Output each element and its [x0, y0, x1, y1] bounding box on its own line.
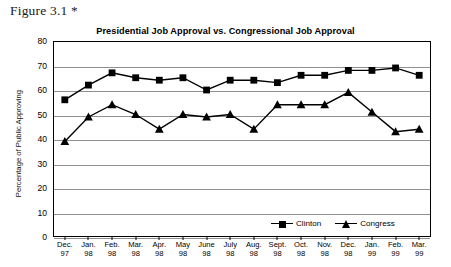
x-tick-label: Jan.98	[81, 240, 95, 259]
legend-label-congress: Congress	[360, 219, 395, 228]
data-point-square	[250, 77, 257, 84]
x-tick-label: Dec.97	[57, 240, 73, 259]
chart-series-layer	[53, 41, 431, 237]
y-tick-label: 30	[37, 159, 47, 169]
data-point-square	[274, 79, 281, 86]
data-point-square	[227, 77, 234, 84]
x-tick-label: July98	[223, 240, 237, 259]
data-point-triangle	[415, 125, 424, 133]
y-tick-label: 70	[37, 61, 47, 71]
data-point-square	[61, 96, 68, 103]
data-point-square	[156, 77, 163, 84]
x-axis-tick-labels: Dec.97Jan.98Feb.98Mar.98Apr.98May98June9…	[53, 240, 431, 266]
data-point-triangle	[155, 125, 164, 133]
chart-legend: Clinton Congress	[268, 216, 398, 231]
chart-title: Presidential Job Approval vs. Congressio…	[0, 26, 451, 36]
triangle-marker-icon	[335, 219, 357, 228]
data-point-triangle	[131, 110, 140, 118]
data-point-square	[369, 67, 376, 74]
series-line-clinton	[65, 68, 419, 100]
x-tick-label: May98	[176, 240, 190, 259]
data-point-triangle	[344, 88, 353, 96]
data-point-square	[180, 74, 187, 81]
y-tick-label: 50	[37, 110, 47, 120]
data-point-square	[109, 69, 116, 76]
y-tick-label: 40	[37, 134, 47, 144]
data-point-square	[132, 74, 139, 81]
x-tick-label: Feb.99	[388, 240, 403, 259]
data-point-square	[345, 67, 352, 74]
x-tick-label: Sept.98	[269, 240, 287, 259]
x-tick-label: Jan.99	[365, 240, 379, 259]
data-point-square	[298, 72, 305, 79]
data-point-triangle	[108, 100, 117, 108]
x-tick-label: June98	[198, 240, 214, 259]
gridline	[54, 238, 430, 239]
y-tick-label: 60	[37, 85, 47, 95]
x-tick-label: Aug.98	[246, 240, 262, 259]
x-tick-label: Nov.98	[317, 240, 332, 259]
data-point-square	[203, 87, 210, 94]
x-tick-label: Feb.98	[104, 240, 119, 259]
square-marker-icon	[271, 219, 293, 228]
y-tick-label: 80	[37, 36, 47, 46]
x-tick-label: Mar.98	[128, 240, 143, 259]
y-tick-label: 20	[37, 183, 47, 193]
data-point-triangle	[226, 110, 235, 118]
data-point-square	[416, 72, 423, 79]
legend-item-clinton[interactable]: Clinton	[271, 219, 321, 228]
data-point-triangle	[179, 110, 188, 118]
x-tick-label: Apr.98	[153, 240, 167, 259]
legend-label-clinton: Clinton	[296, 219, 321, 228]
series-line-congress	[65, 92, 419, 141]
data-point-square	[392, 65, 399, 72]
data-point-square	[321, 72, 328, 79]
legend-item-congress[interactable]: Congress	[335, 219, 395, 228]
x-tick-label: Mar.99	[412, 240, 427, 259]
y-tick-label: 0	[42, 232, 47, 242]
x-tick-label: Oct.98	[294, 240, 308, 259]
y-axis-tick-labels: 01020304050607080	[0, 41, 50, 237]
x-tick-label: Dec.98	[341, 240, 357, 259]
y-tick-label: 10	[37, 208, 47, 218]
figure-caption: Figure 3.1 *	[10, 3, 78, 19]
data-point-triangle	[84, 113, 93, 121]
data-point-square	[85, 82, 92, 89]
